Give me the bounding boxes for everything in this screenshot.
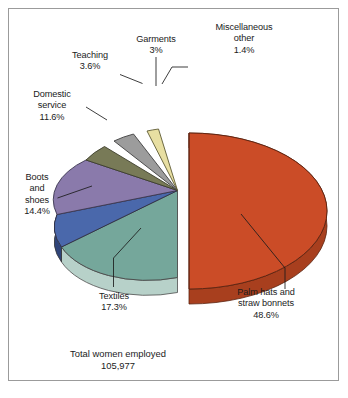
- label-garments: Garments 3%: [118, 34, 194, 57]
- leader-line-misc-other: [162, 67, 188, 84]
- label-boots-and-shoes: Boots and shoes 14.4%: [14, 172, 60, 218]
- total-women-employed-label: Total women employed 105,977: [28, 348, 208, 372]
- label-miscellaneous-other: Miscellaneous other 1.4%: [188, 22, 300, 56]
- label-textiles: Textiles 17.3%: [78, 291, 150, 314]
- label-teaching: Teaching 3.6%: [56, 50, 124, 73]
- leader-line-domestic-service: [86, 107, 107, 120]
- label-palm-hats-and-straw-bonnets: Palm hats and straw bonnets 48.6%: [218, 287, 314, 321]
- leader-line-teaching: [120, 75, 143, 84]
- pie-left-group-tops: [53, 129, 177, 280]
- pie-chart-figure: Miscellaneous other 1.4% Garments 3% Tea…: [0, 0, 348, 398]
- slice-palm-hats-group: [189, 133, 327, 304]
- label-domestic-service: Domestic service 11.6%: [18, 89, 86, 123]
